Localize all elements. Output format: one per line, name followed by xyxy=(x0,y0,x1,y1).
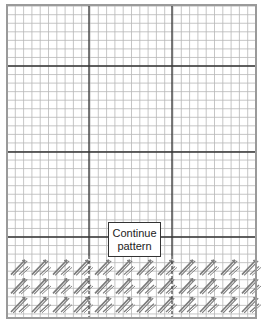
label-line-2: pattern xyxy=(117,240,151,253)
label-line-1: Continue xyxy=(112,227,156,240)
stitch-grid-diagram xyxy=(0,0,271,326)
continue-pattern-label: Continue pattern xyxy=(108,222,161,257)
